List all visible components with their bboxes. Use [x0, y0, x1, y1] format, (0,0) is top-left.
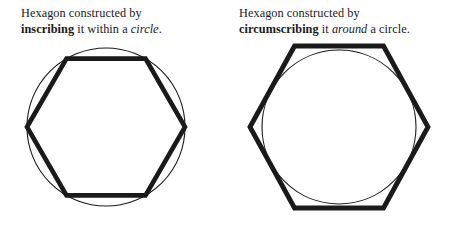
figure-hexagon-inscribed-in-circle: [0, 0, 225, 226]
panel-inscribed: Hexagon constructed by inscribing it wit…: [0, 0, 225, 226]
panel-circumscribed: Hexagon constructed by circumscribing it…: [225, 0, 450, 226]
hexagon-circumscribed: [250, 46, 428, 208]
circle-outer: [27, 48, 185, 206]
circle-inner: [262, 50, 416, 204]
hexagon-inscribed: [27, 59, 185, 196]
figure-hexagon-circumscribed-around-circle: [225, 0, 450, 226]
